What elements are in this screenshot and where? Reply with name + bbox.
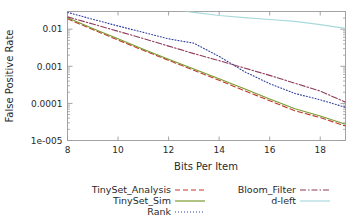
y-tick-label: 1e-005 [31,136,63,146]
x-tick-label: 8 [65,145,71,155]
legend-label-rank: Rank [147,206,171,217]
x-tick-label: 16 [264,145,276,155]
x-tick-label: 14 [213,145,225,155]
y-axis-title: False Positive Rate [4,30,15,123]
false-positive-rate-line-chart: 0.010.0010.00011e-005 81012141618 False … [0,0,358,224]
legend-label-tinyset-analysis: TinySet_Analysis [91,184,171,195]
x-tick-label: 10 [112,145,124,155]
x-axis-title: Bits Per Item [174,161,238,172]
x-tick-label: 18 [315,145,327,155]
legend-label-d-left: d-left [271,195,296,206]
y-tick-label: 0.0001 [31,99,63,109]
legend-label-tinyset-sim: TinySet_Sim [112,195,171,206]
chart-container: 0.010.0010.00011e-005 81012141618 False … [0,0,358,224]
x-tick-label: 12 [163,145,174,155]
y-tick-label: 0.001 [37,62,63,72]
y-tick-label: 0.01 [42,24,62,34]
legend-label-bloom-filter: Bloom_Filter [238,184,296,195]
